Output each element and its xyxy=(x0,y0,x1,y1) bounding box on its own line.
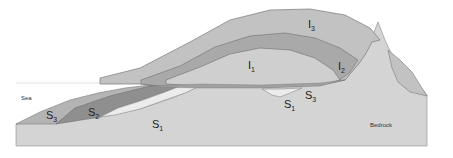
cross-section-diagram: Sea Bedrock S3 S2 S1 S1 S3 I1 I2 I3 xyxy=(0,0,453,158)
bedrock-label: Bedrock xyxy=(370,122,393,128)
sea-label: Sea xyxy=(21,95,32,101)
